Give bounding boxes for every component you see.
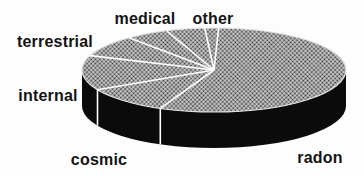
label-other: other [193, 10, 234, 28]
radiation-sources-pie-figure: medical other terrestrial internal cosmi… [0, 0, 364, 176]
label-medical: medical [115, 10, 176, 28]
label-terrestrial: terrestrial [17, 33, 93, 51]
label-radon: radon [297, 149, 342, 167]
label-cosmic: cosmic [71, 151, 127, 169]
label-internal: internal [18, 87, 77, 105]
